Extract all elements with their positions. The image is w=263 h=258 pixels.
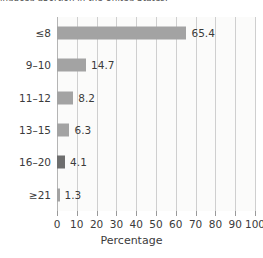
x-tick-label: 50	[149, 218, 162, 230]
category-label-row: 9–10	[0, 49, 55, 81]
bar	[57, 188, 60, 201]
x-tick-mark	[255, 211, 256, 216]
x-tick-label: 40	[130, 218, 143, 230]
x-axis-title: Percentage	[0, 234, 263, 247]
x-tick-label: 60	[169, 218, 182, 230]
bar	[57, 124, 69, 137]
x-tick-mark	[176, 211, 177, 216]
bar	[57, 156, 65, 169]
x-tick-label: 10	[70, 218, 83, 230]
bar-row: 4.1	[57, 146, 255, 178]
category-label: ≥21	[29, 189, 51, 201]
x-tick-mark	[196, 211, 197, 216]
category-label-row: 13–15	[0, 114, 55, 146]
category-label-row: ≥21	[0, 179, 55, 211]
bar-row: 1.3	[57, 179, 255, 211]
category-label-row: 11–12	[0, 82, 55, 114]
category-label: 9–10	[26, 59, 51, 71]
x-tick-label: 90	[229, 218, 242, 230]
category-label: 13–15	[19, 124, 51, 136]
x-tick-mark	[57, 211, 58, 216]
gridline-100	[255, 17, 256, 211]
x-tick-label: 100	[245, 218, 263, 230]
category-label: 16–20	[19, 156, 51, 168]
bar-row: 14.7	[57, 49, 255, 81]
x-tick-mark	[156, 211, 157, 216]
x-tick-label: 0	[54, 218, 61, 230]
category-label-row: ≤8	[0, 17, 55, 49]
bar	[57, 91, 73, 104]
bar	[57, 59, 86, 72]
figure-caption: induced abortion in the United States.	[0, 0, 263, 7]
x-tick-label: 80	[209, 218, 222, 230]
bar	[57, 27, 186, 40]
plot-area: 65.414.78.26.34.11.3	[57, 17, 255, 211]
x-tick-label: 30	[110, 218, 123, 230]
bar-row: 65.4	[57, 17, 255, 49]
category-label-row: 16–20	[0, 146, 55, 178]
bar-value-label: 4.1	[70, 156, 87, 168]
x-tick-label: 20	[90, 218, 103, 230]
bar-chart-figure: induced abortion in the United States. 6…	[0, 0, 263, 258]
x-tick-mark	[215, 211, 216, 216]
x-tick-mark	[136, 211, 137, 216]
x-tick-mark	[97, 211, 98, 216]
category-axis-labels: ≤89–1011–1213–1516–20≥21	[0, 17, 55, 211]
bar-value-label: 6.3	[74, 124, 91, 136]
bar-value-label: 8.2	[78, 92, 95, 104]
bar-value-label: 14.7	[91, 59, 114, 71]
x-tick-label: 70	[189, 218, 202, 230]
bar-value-label: 65.4	[191, 27, 214, 39]
bar-row: 6.3	[57, 114, 255, 146]
x-tick-mark	[116, 211, 117, 216]
category-label: ≤8	[36, 27, 51, 39]
category-label: 11–12	[19, 92, 51, 104]
x-tick-mark	[235, 211, 236, 216]
bar-value-label: 1.3	[65, 189, 82, 201]
bar-row: 8.2	[57, 82, 255, 114]
x-tick-mark	[77, 211, 78, 216]
